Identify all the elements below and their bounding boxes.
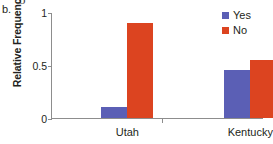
panel-label: b. [2, 3, 11, 15]
x-axis-line [51, 118, 263, 119]
square-swatch-icon [222, 12, 229, 19]
legend-item-no: No [222, 24, 251, 36]
x-axis-tick-mark [162, 119, 163, 123]
y-axis-tick-label: 1 [41, 7, 47, 19]
x-axis-category-label-kentucky: Kentucky [228, 126, 273, 138]
legend: YesNo [222, 9, 251, 36]
bar-utah-yes [101, 107, 127, 118]
bar-kentucky-no [250, 60, 273, 118]
legend-item-label: Yes [233, 10, 251, 21]
legend-item-yes: Yes [222, 9, 251, 21]
bar-kentucky-yes [224, 70, 250, 118]
y-axis-title: Relative Frequency [11, 0, 25, 90]
legend-item-label: No [233, 25, 247, 36]
y-axis-tick-mark [48, 66, 52, 67]
square-swatch-icon [222, 27, 229, 34]
y-axis-tick-mark [48, 13, 52, 14]
y-axis-tick-label: 0.5 [32, 60, 47, 72]
y-axis-tick-mark [48, 119, 52, 120]
y-axis-tick-label: 0 [41, 113, 47, 125]
x-axis-category-label-utah: Utah [116, 126, 139, 138]
bar-utah-no [127, 23, 153, 118]
relative-frequency-bar-chart-figure: o b. Relative Frequency 00.51 UtahKentuc… [0, 0, 273, 144]
